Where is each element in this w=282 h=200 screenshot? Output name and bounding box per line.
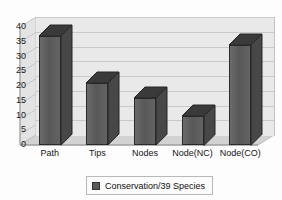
chart-legend: Conservation/39 Species xyxy=(86,176,213,195)
bar xyxy=(86,83,108,145)
bar xyxy=(134,98,156,145)
y-axis-tick-label: 40 xyxy=(6,22,26,31)
y-axis-tick-label: 15 xyxy=(6,96,26,105)
x-axis-category-label: Node(CO) xyxy=(212,148,268,159)
plot-area: 0510152025303540 PathTipsNodesNode(NC)No… xyxy=(0,0,282,200)
bar-chart: 0510152025303540 PathTipsNodesNode(NC)No… xyxy=(0,0,282,200)
bar-three-d-faces-icon xyxy=(39,25,79,146)
legend-entry-label: Conservation/39 Species xyxy=(105,181,205,191)
y-axis-tick-label: 5 xyxy=(6,125,26,134)
x-axis-category-labels: PathTipsNodesNode(NC)Node(CO) xyxy=(26,148,274,162)
y-axis-tick-label: 20 xyxy=(6,81,26,90)
bar-three-d-faces-icon xyxy=(134,87,174,146)
bar-three-d-faces-icon xyxy=(229,34,269,146)
y-axis-tick-label: 10 xyxy=(6,111,26,120)
y-axis-tick-label: 25 xyxy=(6,66,26,75)
bar xyxy=(39,36,61,145)
y-axis-tick-labels: 0510152025303540 xyxy=(4,0,26,200)
y-axis-tick-label: 30 xyxy=(6,52,26,61)
bar xyxy=(182,116,204,146)
bar xyxy=(229,45,251,145)
bar-three-d-faces-icon xyxy=(86,72,126,146)
legend-swatch-icon xyxy=(92,182,100,190)
bar-three-d-faces-icon xyxy=(182,105,222,147)
gridline xyxy=(36,17,274,18)
y-axis-tick-label: 35 xyxy=(6,37,26,46)
